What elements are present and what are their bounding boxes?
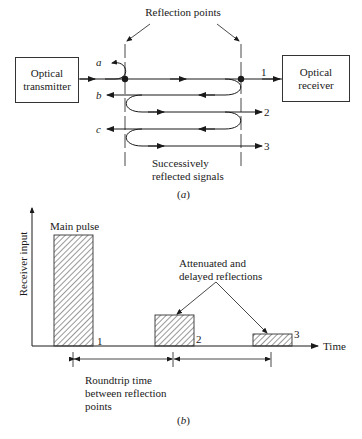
reflection-point-left: [122, 76, 128, 82]
optical-receiver-box: Optical receiver: [282, 55, 350, 102]
reflection-loop-right-1: [225, 79, 241, 95]
receiver-label-line2: receiver: [298, 79, 333, 92]
bar-reflection-2: [155, 315, 194, 346]
annotation-label: Attenuated and delayed reflections: [179, 257, 262, 283]
reflection-points-label: Reflection points: [133, 6, 233, 18]
roundtrip-line3: points: [85, 400, 167, 413]
optical-transmitter-box: Optical transmitter: [15, 57, 79, 103]
caption-successively-reflected: Successively reflected signals: [152, 157, 224, 183]
roundtrip-caption: Roundtrip time between reflection points: [85, 374, 167, 413]
signal-label-3: 3: [264, 140, 270, 152]
y-axis-label: Receiver input: [17, 229, 29, 299]
main-pulse-label: Main pulse: [50, 220, 99, 232]
signal-label-a: a: [96, 56, 102, 68]
figure-label-a-letter: a: [181, 188, 187, 200]
reflection-loop-left-2: [126, 129, 142, 146]
bar-main-pulse: [54, 235, 93, 346]
annotation-arrow-to-2: [177, 282, 216, 314]
roundtrip-line1: Roundtrip time: [85, 374, 167, 387]
signal-label-b: b: [96, 89, 102, 101]
figure-label-a: (a): [177, 188, 190, 200]
x-axis-label: Time: [323, 340, 346, 352]
transmitter-label-line1: Optical: [23, 67, 71, 80]
reflection-pointer-left: [127, 24, 150, 41]
signal-label-1: 1: [261, 66, 267, 78]
bar-reflection-3: [253, 334, 292, 346]
annotation-line1: Attenuated and: [179, 257, 262, 270]
reflection-loop-right-2: [225, 112, 241, 129]
signal-label-c: c: [96, 123, 101, 135]
signal-label-2: 2: [264, 106, 270, 118]
pulse-number-3: 3: [294, 328, 300, 340]
annotation-line2: delayed reflections: [179, 270, 262, 283]
pulse-number-1: 1: [97, 335, 103, 347]
reflection-loop-left-1: [126, 95, 142, 112]
caption-line1: Successively: [152, 157, 224, 170]
reflection-point-right: [238, 76, 244, 82]
dimension-arrowhead-left-2: [174, 357, 180, 362]
roundtrip-line2: between reflection: [85, 387, 167, 400]
figure-label-b-letter: b: [181, 414, 187, 426]
receiver-label-line1: Optical: [298, 66, 333, 79]
figure-label-b: (b): [177, 414, 190, 426]
reflection-a-path: [105, 63, 126, 79]
caption-line2: reflected signals: [152, 170, 224, 183]
dimension-arrowhead-left-1: [74, 357, 80, 362]
transmitter-label-line2: transmitter: [23, 80, 71, 93]
reflection-pointer-right: [217, 24, 239, 41]
pulse-number-2: 2: [196, 333, 202, 345]
annotation-arrow-to-3: [216, 282, 267, 333]
